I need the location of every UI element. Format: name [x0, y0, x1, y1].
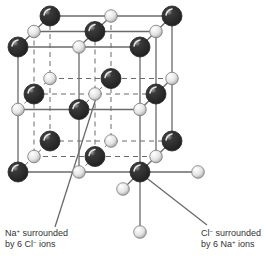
cl-ion [117, 183, 130, 196]
cl-label-line2: by 6 Na+ ions [201, 239, 261, 250]
na-surrounded-label: Na+ surrounded by 6 Cl− ions [5, 228, 68, 250]
cl-ion [105, 135, 118, 148]
nacl-lattice-diagram [0, 0, 265, 259]
cl-ion [105, 10, 118, 23]
cl-surrounded-label: Cl− surrounded by 6 Na+ ions [201, 228, 261, 250]
cl-ion [134, 226, 147, 239]
cl-ion [28, 25, 41, 38]
na-label-line2: by 6 Cl− ions [5, 239, 68, 250]
cl-ion [134, 103, 147, 116]
cl-ion [73, 41, 86, 54]
na-label-line1: Na+ surrounded [5, 228, 68, 239]
cl-ion [12, 103, 25, 116]
ions [8, 6, 204, 238]
cl-ion [44, 72, 57, 85]
cl-ion [28, 150, 41, 163]
cl-ion [73, 166, 86, 179]
cl-ion [150, 25, 163, 38]
lattice-lines [18, 16, 198, 232]
cl-ion [89, 88, 102, 101]
cl-leader-line [144, 176, 207, 225]
cl-label-line1: Cl− surrounded [201, 228, 261, 239]
cl-ion [192, 166, 205, 179]
cl-ion [166, 72, 179, 85]
cl-ion [150, 150, 163, 163]
